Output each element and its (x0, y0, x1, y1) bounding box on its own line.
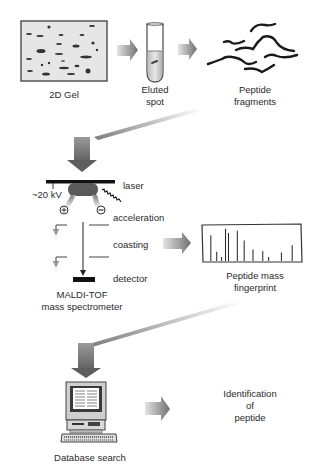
maldi-label-line2: mass spectrometer (32, 301, 132, 313)
arrow-right-icon (145, 396, 170, 421)
arrow-right-icon (117, 39, 138, 61)
identification-label: Identification of peptide (210, 388, 290, 424)
gel-label: 2D Gel (34, 89, 94, 101)
identification-label-line2: of (210, 400, 290, 412)
test-tube-icon (147, 23, 164, 82)
eluted-label-line1: Eluted (130, 84, 180, 96)
arrow-right-icon (178, 38, 197, 60)
computer-icon (61, 382, 117, 442)
fingerprint-label-line2: fingerprint (210, 282, 300, 294)
fragments-label-line2: fragments (220, 96, 290, 108)
peptide-fragments-label: Peptide fragments (220, 84, 290, 108)
mass-spectrum-chart (202, 224, 302, 262)
maldi-tof-label: MALDI-TOF mass spectrometer (32, 289, 132, 313)
maldi-label-line1: MALDI-TOF (32, 289, 132, 301)
fingerprint-label: Peptide mass fingerprint (210, 270, 300, 294)
arrow-down-icon (67, 108, 200, 172)
identification-label-line1: Identification (210, 388, 290, 400)
fragments-label-line1: Peptide (220, 84, 290, 96)
fingerprint-label-line1: Peptide mass (210, 270, 300, 282)
acceleration-label: acceleration (113, 212, 183, 224)
coasting-label: coasting (113, 239, 173, 251)
eluted-spot-label: Eluted spot (130, 84, 180, 108)
gel-icon (21, 21, 107, 81)
eluted-label-line2: spot (130, 96, 180, 108)
database-search-label: Database search (40, 452, 140, 464)
identification-label-line3: peptide (210, 412, 290, 424)
laser-label: laser (123, 180, 153, 192)
voltage-label: ~20 kV (32, 189, 68, 201)
peptide-fragments-icon (208, 24, 297, 72)
detector-label: detector (113, 273, 173, 285)
